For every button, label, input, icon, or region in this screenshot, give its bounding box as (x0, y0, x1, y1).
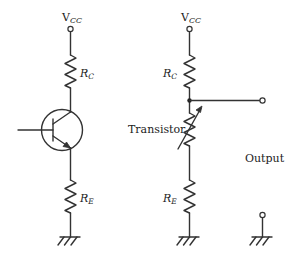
right-rc-resistor-icon (184, 55, 195, 88)
left-circuit: VCC RC RE (18, 11, 94, 245)
right-vcc-terminal-icon (187, 26, 192, 31)
left-ground-icon (58, 237, 80, 245)
npn-transistor-icon (18, 110, 83, 151)
output-ground-terminal-icon (260, 212, 265, 217)
left-re-resistor-icon (65, 180, 76, 213)
transistor-label: Transistor (128, 123, 186, 136)
right-re-resistor-icon (184, 180, 195, 213)
right-vcc-label: VCC (180, 11, 201, 25)
right-rc-label: RC (162, 67, 177, 81)
left-re-label: RE (79, 192, 94, 206)
output-terminal-icon (260, 98, 265, 103)
left-vcc-terminal-icon (68, 26, 73, 31)
circuit-diagram: VCC RC RE (0, 0, 293, 259)
right-re-label: RE (162, 192, 177, 206)
left-vcc-label: VCC (61, 11, 82, 25)
left-rc-label: RC (79, 67, 94, 81)
right-circuit: VCC RC Transistor RE Output (128, 11, 285, 245)
output-label: Output (245, 152, 285, 165)
right-ground-icon (177, 237, 199, 245)
left-rc-resistor-icon (65, 55, 76, 88)
output-ground-icon (250, 237, 272, 245)
